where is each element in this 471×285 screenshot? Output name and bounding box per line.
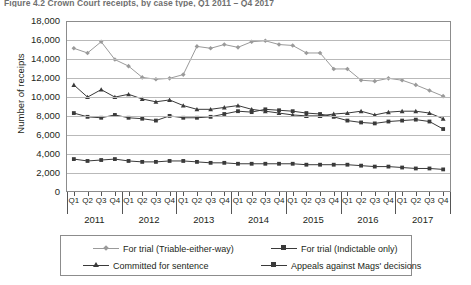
x-axis-quarter-label: Q2 <box>354 196 368 205</box>
x-axis-quarter-label: Q4 <box>272 196 286 205</box>
gridline <box>67 154 450 155</box>
data-point <box>181 159 185 163</box>
data-point <box>304 51 309 56</box>
data-point <box>99 87 104 91</box>
data-point <box>154 119 158 123</box>
data-point <box>359 164 363 168</box>
x-axis-quarter-label: Q3 <box>422 196 436 205</box>
year-separator <box>122 192 123 214</box>
legend-label: For trial (Indictable only) <box>301 244 398 254</box>
year-separator <box>341 192 342 214</box>
gridline <box>67 173 450 174</box>
y-axis-tick: 18,000 <box>0 16 60 26</box>
y-axis-tick: 10,000 <box>0 92 60 102</box>
data-point <box>291 162 295 166</box>
year-separator <box>395 192 396 214</box>
x-axis-quarter-label: Q1 <box>395 196 409 205</box>
data-point <box>236 45 241 50</box>
plot-area <box>66 21 451 192</box>
data-point <box>414 118 418 122</box>
data-point <box>346 119 350 123</box>
x-axis-year-label: 2011 <box>74 214 114 225</box>
data-point <box>387 120 391 124</box>
y-axis-tick: 12,000 <box>0 73 60 83</box>
x-axis-year-label: 2012 <box>129 214 169 225</box>
data-point <box>208 46 213 51</box>
legend-marker-triangle <box>83 260 109 270</box>
data-point <box>359 121 363 125</box>
data-point <box>318 163 322 167</box>
year-separator <box>450 192 451 214</box>
x-axis-quarter-label: Q1 <box>340 196 354 205</box>
x-axis-quarter-label: Q2 <box>245 196 259 205</box>
y-axis-tick: 4,000 <box>0 149 60 159</box>
x-axis-quarter-label: Q4 <box>327 196 341 205</box>
data-point <box>428 167 432 171</box>
data-point <box>154 160 158 164</box>
year-separator <box>286 192 287 214</box>
data-point <box>373 122 377 126</box>
x-axis-quarter-label: Q2 <box>135 196 149 205</box>
x-axis-quarter-label: Q3 <box>204 196 218 205</box>
gridline <box>67 116 450 117</box>
gridline <box>67 59 450 60</box>
figure-container: Figure 4.2 Crown Court receipts, by case… <box>0 0 471 285</box>
gridline <box>67 97 450 98</box>
x-axis-year-label: 2016 <box>348 214 388 225</box>
data-point <box>427 88 432 93</box>
x-axis-quarter-label: Q3 <box>313 196 327 205</box>
x-axis-quarter-label: Q1 <box>231 196 245 205</box>
series-square <box>72 157 445 171</box>
data-point <box>168 159 172 163</box>
data-point <box>140 160 144 164</box>
x-axis-year-label: 2015 <box>293 214 333 225</box>
x-axis-year-label: 2017 <box>403 214 443 225</box>
legend-marker-diamond <box>93 243 119 253</box>
data-point <box>236 109 240 113</box>
x-axis-quarter-label: Q2 <box>409 196 423 205</box>
series-diamond <box>72 38 446 98</box>
data-point <box>222 161 226 165</box>
x-axis-quarter-label: Q3 <box>149 196 163 205</box>
legend-label: Appeals against Mags' decisions <box>291 261 421 271</box>
y-axis-tick: 0 <box>0 187 60 197</box>
chart-legend: For trial (Triable-either-way)For trial … <box>60 235 412 276</box>
data-point <box>222 42 227 47</box>
data-point <box>372 79 377 84</box>
data-point <box>181 72 186 77</box>
data-point <box>414 167 418 171</box>
gridline <box>67 40 450 41</box>
data-point <box>400 166 404 170</box>
data-point <box>414 83 419 88</box>
x-axis-quarter-label: Q1 <box>122 196 136 205</box>
x-axis-quarter-label: Q4 <box>163 196 177 205</box>
legend-label: For trial (Triable-either-way) <box>123 244 234 254</box>
data-point <box>195 44 200 49</box>
data-point <box>126 92 131 96</box>
data-point <box>373 165 377 169</box>
x-axis-year-label: 2014 <box>239 214 279 225</box>
y-axis-tick: 14,000 <box>0 54 60 64</box>
year-separator <box>231 192 232 214</box>
data-point <box>291 109 295 113</box>
data-point <box>113 157 117 161</box>
data-point <box>263 162 267 166</box>
legend-marker-square <box>261 260 287 270</box>
data-point <box>127 159 131 163</box>
gridline <box>67 78 450 79</box>
year-separator <box>176 192 177 214</box>
data-point <box>72 111 76 115</box>
x-axis-quarter-label: Q3 <box>94 196 108 205</box>
data-point <box>209 161 213 165</box>
series-triangle <box>71 83 445 121</box>
data-point <box>387 165 391 169</box>
gridline <box>67 135 450 136</box>
data-point <box>72 46 77 51</box>
data-point <box>86 159 90 163</box>
x-axis-quarter-label: Q1 <box>67 196 81 205</box>
data-point <box>441 127 445 131</box>
x-axis-quarter-label: Q4 <box>381 196 395 205</box>
x-axis-quarter-label: Q4 <box>108 196 122 205</box>
x-axis-quarter-label: Q2 <box>299 196 313 205</box>
y-axis-tick: 2,000 <box>0 168 60 178</box>
